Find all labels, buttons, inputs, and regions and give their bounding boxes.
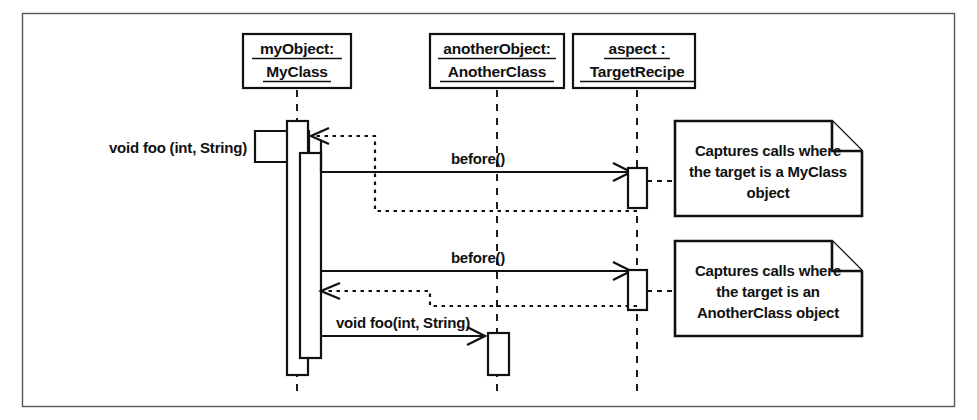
- message-found-call[interactable]: void foo (int, String): [109, 131, 309, 169]
- message-foo-call[interactable]: void foo(int, String): [321, 314, 485, 345]
- message-before-1[interactable]: before(): [321, 140, 631, 181]
- lifeline-aspect-name-line2: TargetRecipe: [590, 63, 685, 80]
- diagram-canvas: myObject: MyClass anotherObject: Another…: [0, 0, 977, 420]
- note-myclass-line-1: Captures calls where: [695, 142, 841, 159]
- message-return-1[interactable]: [311, 128, 637, 211]
- lifeline-myobject-name-line1: myObject:: [260, 40, 334, 57]
- activation-anotherobject[interactable]: [488, 333, 509, 375]
- return-1-line: [314, 136, 637, 211]
- activation-aspect-2[interactable]: [628, 270, 647, 310]
- note-myclass-line-3: object: [747, 184, 790, 201]
- note-anotherclass-line-2: the target is an: [716, 283, 820, 300]
- found-call-label: void foo (int, String): [109, 139, 247, 156]
- note-anotherclass[interactable]: Captures calls where the target is an An…: [647, 241, 862, 336]
- lifeline-anotherobject-name-line2: AnotherClass: [448, 63, 546, 80]
- note-anotherclass-line-1: Captures calls where: [695, 262, 841, 279]
- note-myclass[interactable]: Captures calls where the target is a MyC…: [647, 121, 862, 216]
- lifeline-header-aspect[interactable]: aspect : TargetRecipe: [573, 34, 695, 88]
- lifeline-myobject-name-line2: MyClass: [266, 63, 328, 80]
- note-anotherclass-line-3: AnotherClass object: [697, 304, 839, 321]
- before-2-label: before(): [451, 249, 505, 266]
- sequence-diagram-figure: myObject: MyClass anotherObject: Another…: [0, 0, 977, 420]
- lifeline-aspect-name-line1: aspect :: [609, 40, 666, 57]
- message-return-2[interactable]: [321, 283, 637, 306]
- message-before-2[interactable]: before(): [321, 249, 631, 280]
- lifeline-anotherobject-name-line1: anotherObject:: [443, 40, 550, 57]
- return-2-line: [325, 291, 637, 306]
- lifeline-header-anotherobject[interactable]: anotherObject: AnotherClass: [430, 34, 564, 88]
- activation-aspect-1[interactable]: [628, 168, 647, 208]
- note-myclass-line-2: the target is a MyClass: [689, 163, 847, 180]
- lifeline-header-myobject[interactable]: myObject: MyClass: [243, 34, 351, 88]
- before-1-label: before(): [451, 150, 505, 167]
- foo-call-label: void foo(int, String): [336, 314, 470, 331]
- activation-myobject-inner[interactable]: [300, 153, 321, 358]
